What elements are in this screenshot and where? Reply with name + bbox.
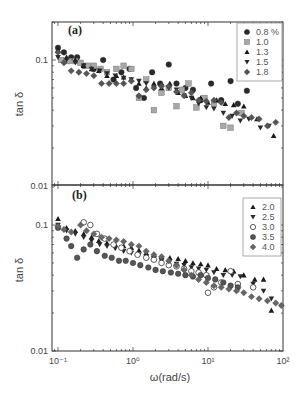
diamond-marker-icon — [68, 68, 74, 74]
diamond-marker-icon — [128, 78, 134, 84]
x-tick-label: 10⁰ — [126, 356, 140, 366]
circle-marker-icon — [109, 255, 115, 261]
diamond-marker-icon — [264, 123, 270, 129]
triangle-up-marker-icon — [190, 260, 196, 265]
triangle-down-marker-icon — [221, 273, 227, 278]
circle-marker-icon — [175, 271, 181, 277]
circle-marker-icon — [137, 262, 143, 268]
circle-marker-icon — [153, 267, 159, 273]
panel-a-ylabel: tan δ — [13, 92, 25, 116]
square-marker-icon — [186, 81, 192, 87]
legend-label: 1.3 — [256, 47, 269, 57]
triangle-up-marker-icon — [214, 266, 220, 271]
circle-marker-icon — [160, 268, 166, 274]
series-0.8 — [55, 45, 249, 107]
circle-marker-icon — [88, 242, 94, 248]
triangle-up-marker-icon — [198, 261, 204, 266]
circle-open-marker-icon — [143, 255, 149, 261]
figure: (a) 0.1 tan δ 0.8 %1.01.31.51.8 (b) 0.01… — [0, 0, 302, 400]
circle-marker-icon — [168, 270, 174, 276]
legend-label: 1.8 — [256, 67, 269, 77]
diamond-marker-icon — [143, 248, 149, 254]
panel-b-ytick-0.1: 0.1 — [35, 220, 48, 230]
triangle-up-marker-icon — [183, 258, 189, 263]
square-marker-icon — [151, 107, 157, 113]
diamond-marker-icon — [120, 80, 126, 86]
triangle-down-marker-icon — [258, 125, 264, 130]
circle-marker-icon — [146, 265, 152, 271]
triangle-down-marker-icon — [81, 235, 87, 240]
circle-marker-icon — [149, 69, 155, 75]
panel-b: (b) 0.01 0.1 0.01 tan δ 2.02.53.03.54.0 … — [13, 181, 290, 383]
circle-marker-icon — [102, 253, 108, 259]
triangle-down-marker-icon — [238, 118, 244, 123]
legend-label: 3.5 — [262, 232, 275, 242]
circle-marker-icon — [68, 243, 74, 249]
triangle-up-marker-icon — [269, 308, 275, 313]
triangle-down-marker-icon — [211, 270, 217, 275]
diamond-marker-icon — [91, 73, 97, 79]
square-marker-icon — [129, 66, 135, 72]
triangle-up-marker-icon — [271, 133, 277, 138]
diamond-marker-icon — [273, 119, 279, 125]
panel-a-ytick-0.1: 0.1 — [35, 55, 48, 65]
diamond-marker-icon — [136, 243, 142, 249]
diamond-marker-icon — [264, 298, 270, 304]
diamond-marker-icon — [256, 295, 262, 301]
square-marker-icon — [228, 125, 234, 131]
circle-marker-icon — [74, 255, 80, 261]
triangle-up-marker-icon — [222, 267, 228, 272]
diamond-marker-icon — [76, 69, 82, 75]
triangle-up-marker-icon — [175, 256, 181, 261]
circle-marker-icon — [166, 62, 172, 68]
triangle-up-marker-icon — [252, 277, 258, 282]
circle-marker-icon — [212, 277, 218, 283]
triangle-up-marker-icon — [261, 277, 267, 282]
legend-label: 3.0 — [262, 222, 275, 232]
square-marker-icon — [244, 39, 249, 44]
panel-a-label: (a) — [68, 23, 82, 37]
circle-marker-icon — [183, 272, 189, 278]
circle-open-marker-icon — [228, 268, 234, 274]
panel-a: (a) 0.1 tan δ 0.8 %1.01.31.51.8 — [13, 22, 283, 185]
square-marker-icon — [114, 66, 120, 72]
legend-label: 4.0 — [262, 242, 275, 252]
diamond-marker-icon — [55, 49, 61, 55]
circle-marker-icon — [81, 247, 87, 253]
triangle-up-marker-icon — [55, 216, 61, 221]
circle-open-marker-icon — [88, 222, 94, 228]
panel-a-ytick-0.01: 0.01 — [30, 181, 48, 191]
circle-marker-icon — [61, 50, 67, 56]
triangle-down-marker-icon — [211, 107, 217, 112]
circle-marker-icon — [208, 81, 214, 87]
circle-marker-icon — [94, 248, 100, 254]
circle-marker-icon — [244, 88, 250, 94]
diamond-marker-icon — [120, 238, 126, 244]
square-marker-icon — [121, 63, 127, 69]
legend-label: 2.5 — [262, 212, 275, 222]
panel-a-legend: 0.8 %1.01.31.51.8 — [237, 23, 282, 81]
diamond-marker-icon — [248, 293, 254, 299]
circle-marker-icon — [100, 57, 106, 63]
circle-marker-icon — [244, 29, 249, 34]
circle-open-marker-icon — [119, 245, 125, 251]
legend-label: 1.0 — [256, 37, 269, 47]
x-tick-label: 10² — [276, 356, 289, 366]
series-1.0 — [58, 57, 244, 130]
x-tick-labels: 10⁻¹10⁰10¹10² — [49, 356, 290, 366]
diamond-marker-icon — [181, 93, 187, 99]
circle-open-marker-icon — [205, 290, 211, 296]
diamond-marker-icon — [143, 87, 149, 93]
triangle-down-marker-icon — [261, 289, 267, 294]
circle-open-marker-icon — [159, 260, 165, 266]
circle-marker-icon — [116, 258, 122, 264]
circle-open-marker-icon — [127, 248, 133, 254]
circle-marker-icon — [174, 81, 180, 87]
circle-marker-icon — [123, 258, 129, 264]
diamond-marker-icon — [83, 70, 89, 76]
triangle-up-marker-icon — [241, 103, 247, 108]
triangle-down-marker-icon — [104, 244, 110, 249]
triangle-down-marker-icon — [97, 242, 103, 247]
legend-label: 1.5 — [256, 57, 269, 67]
panel-b-legend: 2.02.53.03.54.0 — [243, 198, 281, 256]
